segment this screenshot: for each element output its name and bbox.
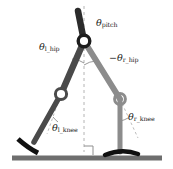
subscript-right-hip: r_hip <box>123 56 139 63</box>
left-shank-link <box>34 94 61 142</box>
minus-sign-right-hip: − <box>109 52 117 63</box>
label-theta-right-hip: −θr_hip <box>109 53 138 64</box>
subscript-left-knee: l_knee <box>58 126 78 133</box>
diagram-canvas <box>0 0 173 169</box>
label-theta-pitch: θpitch <box>96 18 117 29</box>
subscript-pitch: pitch <box>102 21 118 28</box>
label-theta-left-hip: θl_hip <box>39 42 60 53</box>
right-foot <box>105 151 138 155</box>
subscript-left-hip: l_hip <box>45 45 60 52</box>
label-theta-right-knee: θr_knee <box>128 112 155 123</box>
label-theta-left-knee: θl_knee <box>52 123 78 134</box>
hip-joint <box>78 35 90 47</box>
left-knee-joint <box>55 88 66 99</box>
left-thigh-link <box>61 41 84 94</box>
subscript-right-knee: r_knee <box>134 115 155 122</box>
right-angle-marker <box>84 146 93 155</box>
right-thigh-link <box>84 41 120 99</box>
joint-angle-diagram: θpitch θl_hip −θr_hip θl_knee θr_knee <box>0 0 173 169</box>
